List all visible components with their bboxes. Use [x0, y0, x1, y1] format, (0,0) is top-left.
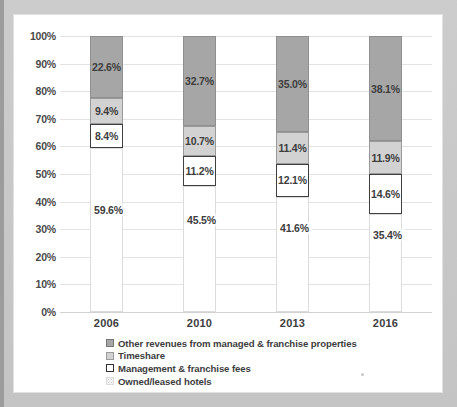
y-axis-tick-label: 30%: [36, 223, 56, 235]
bar-value-label: 59.6%: [91, 204, 126, 216]
legend-item-label: Owned/leased hotels: [118, 376, 212, 387]
chart-legend: Other revenues from managed & franchise …: [14, 337, 442, 387]
legend-swatch-icon: [106, 339, 114, 347]
bar-segment[interactable]: 8.4%: [90, 124, 123, 147]
legend-item[interactable]: Management & franchise fees: [106, 362, 442, 375]
bar-segment[interactable]: 35.0%: [276, 36, 309, 133]
bar-segment[interactable]: 35.4%: [369, 214, 402, 312]
legend-swatch-icon: [106, 352, 114, 360]
legend-item[interactable]: Timeshare: [106, 350, 442, 363]
bar-value-label: 14.6%: [371, 188, 400, 200]
bar-value-label: 41.6%: [277, 222, 312, 234]
legend-item-label: Timeshare: [118, 350, 165, 361]
y-axis-tick-label: 40%: [36, 196, 56, 208]
bar-value-label: 45.5%: [184, 214, 219, 226]
bar-value-label: 8.4%: [95, 130, 118, 142]
bar-segment[interactable]: 11.4%: [276, 132, 309, 163]
bar-value-label: 32.7%: [185, 75, 214, 87]
bar-segment[interactable]: 22.6%: [90, 36, 123, 98]
x-axis-tick-label: 2016: [369, 317, 402, 329]
bar-segment[interactable]: 11.9%: [369, 141, 402, 174]
plot-area-wrapper: 100%90%80%70%60%50%40%30%20%10%0% 59.6%8…: [14, 15, 442, 315]
x-axis-tick-label: 2013: [276, 317, 309, 329]
y-axis-tick-label: 90%: [36, 58, 56, 70]
bar-value-label: 38.1%: [371, 83, 400, 95]
legend-item-label: Management & franchise fees: [118, 363, 251, 374]
bar-value-label: 9.4%: [95, 105, 118, 117]
y-axis-tick-label: 60%: [36, 140, 56, 152]
scan-speck: [361, 373, 364, 376]
page-background: 100%90%80%70%60%50%40%30%20%10%0% 59.6%8…: [0, 0, 457, 407]
bar-column[interactable]: 59.6%8.4%9.4%22.6%: [90, 36, 123, 312]
bar-column[interactable]: 45.5%11.2%10.7%32.7%: [183, 36, 216, 312]
gridline: [60, 312, 432, 313]
bar-segment[interactable]: 11.2%: [183, 156, 216, 187]
y-axis-tick-label: 0%: [41, 306, 56, 318]
bar-value-label: 11.9%: [371, 152, 399, 164]
bar-segment[interactable]: 32.7%: [183, 36, 216, 126]
bar-column[interactable]: 35.4%14.6%11.9%38.1%: [369, 36, 402, 312]
legend-item[interactable]: Owned/leased hotels: [106, 375, 442, 388]
bar-segment[interactable]: 38.1%: [369, 36, 402, 141]
bar-segment[interactable]: 10.7%: [183, 126, 216, 156]
y-axis-tick-label: 100%: [30, 30, 56, 42]
bar-segment[interactable]: 12.1%: [276, 164, 309, 197]
bar-value-label: 35.4%: [370, 229, 405, 241]
bar-segment[interactable]: 9.4%: [90, 98, 123, 124]
bar-segment[interactable]: 41.6%: [276, 197, 309, 312]
y-axis-tick-label: 70%: [36, 113, 56, 125]
bar-value-label: 10.7%: [185, 135, 214, 147]
chart-panel: 100%90%80%70%60%50%40%30%20%10%0% 59.6%8…: [14, 15, 442, 392]
x-axis-tick-label: 2006: [90, 317, 123, 329]
plot-area: 59.6%8.4%9.4%22.6%45.5%11.2%10.7%32.7%41…: [60, 36, 432, 312]
x-axis: 2006201020132016: [60, 315, 432, 337]
x-axis-tick-label: 2010: [183, 317, 216, 329]
y-axis-tick-label: 80%: [36, 85, 56, 97]
bar-column[interactable]: 41.6%12.1%11.4%35.0%: [276, 36, 309, 312]
legend-item-label: Other revenues from managed & franchise …: [118, 338, 357, 349]
bar-segment[interactable]: 59.6%: [90, 148, 123, 312]
legend-swatch-icon: [106, 377, 114, 385]
y-axis: 100%90%80%70%60%50%40%30%20%10%0%: [14, 15, 60, 315]
legend-item[interactable]: Other revenues from managed & franchise …: [106, 337, 442, 350]
bar-segment[interactable]: 45.5%: [183, 186, 216, 312]
bar-value-label: 12.1%: [278, 174, 307, 186]
bar-value-label: 35.0%: [278, 78, 307, 90]
y-axis-tick-label: 50%: [36, 168, 56, 180]
y-axis-tick-label: 10%: [36, 278, 56, 290]
bar-value-label: 11.4%: [278, 142, 306, 154]
bar-value-label: 22.6%: [92, 61, 121, 73]
legend-swatch-icon: [106, 364, 114, 372]
bar-value-label: 11.2%: [185, 165, 213, 177]
bar-segment[interactable]: 14.6%: [369, 174, 402, 214]
y-axis-tick-label: 20%: [36, 251, 56, 263]
